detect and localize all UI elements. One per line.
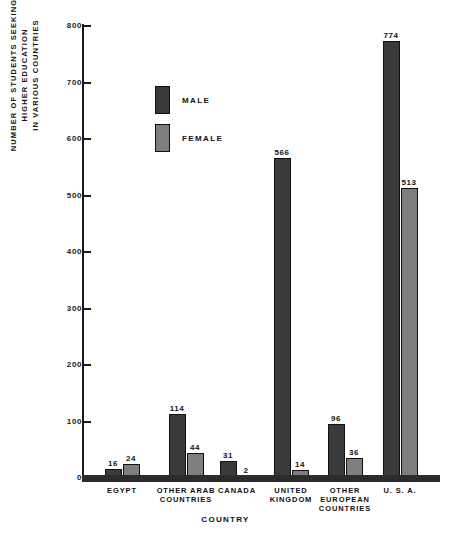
bar-group: 11444: [169, 26, 204, 478]
x-axis-line: [82, 475, 440, 482]
bar-value-label: 14: [295, 460, 305, 469]
bar-value-label: 16: [108, 459, 118, 468]
bar-group: 9636: [328, 26, 363, 478]
bar-chart: NUMBER OF STUDENTS SEEKING HIGHER EDUCAT…: [0, 0, 451, 536]
bar-male: 96: [328, 424, 345, 478]
bar-group: 1624: [105, 26, 140, 478]
bar-value-label: 566: [275, 148, 290, 157]
x-axis-title: COUNTRY: [0, 515, 451, 524]
y-axis-tick-label: 700: [28, 78, 82, 87]
y-axis-tick-label: 300: [28, 304, 82, 313]
bar-male: 774: [383, 41, 400, 478]
bar-female: 513: [401, 188, 418, 478]
y-axis-tick-label: 400: [28, 247, 82, 256]
bar-value-label: 31: [223, 451, 233, 460]
category-label: U. S. A.: [355, 486, 445, 495]
y-axis-tick-label: 0: [28, 473, 82, 482]
bar-value-label: 774: [384, 31, 399, 40]
bar-male: 114: [169, 414, 186, 478]
bar-value-label: 114: [170, 404, 184, 413]
bar-value-label: 36: [349, 448, 359, 457]
bar-value-label: 96: [331, 414, 341, 423]
bar-value-label: 513: [402, 178, 417, 187]
bar-value-label: 2: [244, 466, 249, 475]
y-axis-tick-label: 100: [28, 417, 82, 426]
bar-group: 56614: [274, 26, 309, 478]
bar-group: 312: [220, 26, 255, 478]
y-axis-tick-label: 200: [28, 360, 82, 369]
bar-value-label: 24: [126, 454, 136, 463]
y-axis-tick-label: 500: [28, 191, 82, 200]
bar-male: 566: [274, 158, 291, 478]
y-axis-tick-label: 800: [28, 21, 82, 30]
y-axis-tick-label: 600: [28, 134, 82, 143]
bar-group: 774513: [383, 26, 418, 478]
bars-layer: 162411444312566149636774513: [82, 26, 440, 478]
bar-value-label: 44: [190, 443, 200, 452]
